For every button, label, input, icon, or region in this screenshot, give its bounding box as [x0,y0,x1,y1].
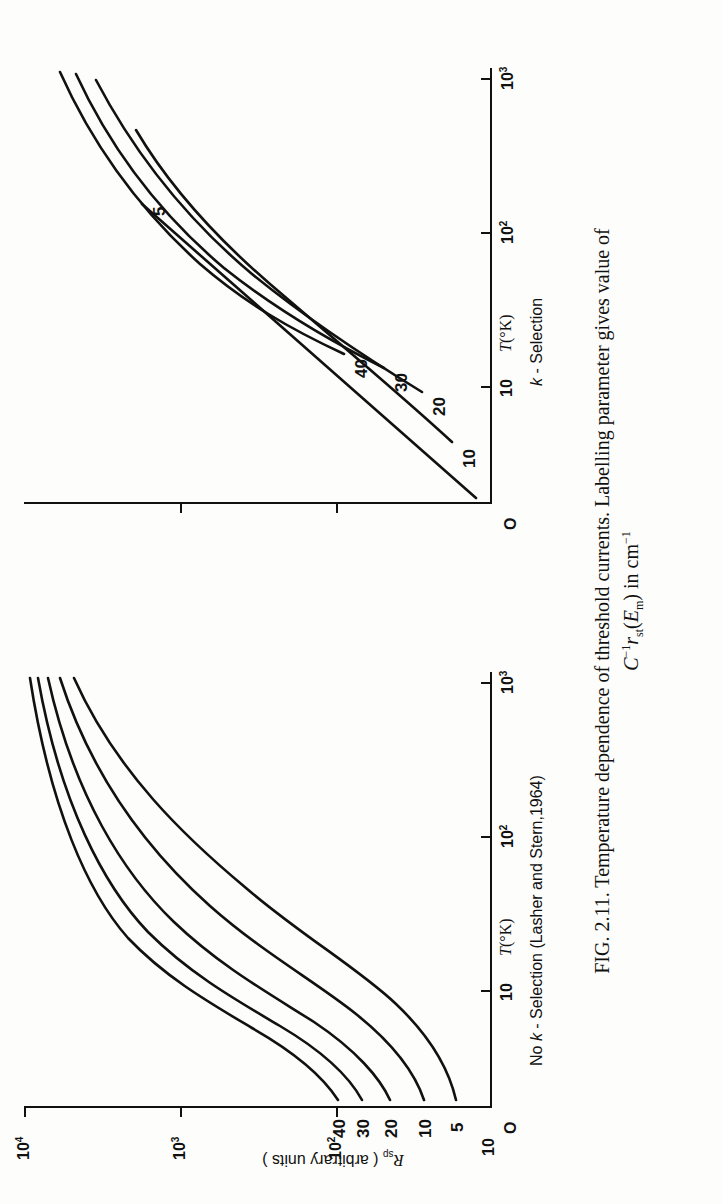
figure-caption-text: Temperature dependence of threshold curr… [591,228,613,887]
right-panel-plot: O 10 102 103 T(°K) k - Selection [24,64,524,504]
curve-20 [48,678,390,1100]
left-panel-origin-label: O [502,1122,520,1134]
subtitle-k-symbol: k [528,1033,545,1041]
curve-5 [142,204,476,498]
x-tick-base: 10 [498,379,515,397]
curve-30 [38,678,362,1100]
y-tick-exp: 4 [14,1137,25,1143]
curve-30 [76,74,384,368]
caption-sub-st: st [632,629,646,637]
left-panel-curve-label-30: 30 [354,1119,374,1138]
caption-paren-open: ( [620,622,642,629]
x-tick-base: 10 [498,983,515,1001]
caption-unit-exp: −1 [619,531,633,544]
right-panel-y-tick-2 [336,504,338,513]
curve-40 [30,678,338,1100]
left-panel-curve-label-40: 40 [330,1119,350,1138]
figure-caption: FIG. 2.11. Temperature dependence of thr… [588,86,648,1116]
y-axis-title-symbol: R [394,1151,404,1170]
right-panel-x-ticklabel-1: 10 [498,379,516,397]
y-axis-title-unit: ( arbitrary units ) [262,1152,383,1169]
y-tick-base: 10 [15,1142,32,1160]
caption-paren-close: ) [620,594,642,601]
x-axis-title-unit: (°K) [497,314,514,343]
x-tick-exp: 2 [498,825,509,831]
caption-symbol-C: C [620,657,642,670]
left-panel-x-ticklabel-3: 103 [498,671,517,694]
left-panel-plot: 10 102 103 104 O 10 102 103 T(°K) No k -… [24,668,524,1108]
y-tick-exp: 3 [170,1137,181,1143]
left-panel-curve-label-20: 20 [382,1119,402,1138]
curve-20 [96,80,422,392]
left-panel-x-ticklabel-1: 10 [498,983,516,1001]
x-axis-title-unit: (°K) [497,918,514,947]
y-axis-title-subscript: sp [383,1149,394,1160]
left-panel-y-ticklabel-4: 104 [14,1137,33,1160]
left-panel-y-ticklabel-3: 103 [170,1137,189,1160]
caption-sub-m: m [632,601,646,610]
right-panel-x-ticklabel-2: 102 [498,221,517,244]
right-panel-curve-label-5: 5 [150,207,170,216]
left-panel-x-axis-title: T(°K) [497,918,515,956]
left-panel-curve-label-10: 10 [416,1119,436,1138]
right-panel-x-ticklabel-3: 103 [498,67,517,90]
right-panel-x-axis-title: T(°K) [497,314,515,352]
right-panel-origin-label: O [502,518,520,530]
right-panel-subtitle: k - Selection [528,298,546,386]
subtitle-rest: - Selection [528,298,545,378]
figure-caption-line2: C−1rst(Em) in cm−1 [617,86,648,1116]
x-tick-exp: 3 [498,671,509,677]
x-tick-exp: 2 [498,221,509,227]
right-panel-curve-label-10: 10 [460,449,480,468]
left-panel-y-tick-4 [24,1108,26,1117]
right-panel-curves [24,64,494,504]
subtitle-prefix: No [528,1041,545,1066]
curve-10 [136,130,452,442]
left-panel-x-ticklabel-2: 102 [498,825,517,848]
x-axis-title-symbol: T [497,343,514,352]
left-panel-y-axis-title: Rsp ( arbitrary units ) [262,1149,404,1170]
right-panel-y-tick-3 [180,504,182,513]
left-panel-y-tick-3 [180,1108,182,1117]
caption-unit-text: in cm [620,544,642,594]
left-panel-y-tick-2 [336,1108,338,1117]
figure-page: 10 102 103 104 O 10 102 103 T(°K) No k -… [0,0,722,1204]
caption-symbol-E: E [620,610,642,622]
x-tick-base: 10 [499,830,516,848]
left-panel-y-ticklabel-1: 10 [480,1138,498,1156]
right-panel-curve-label-40: 40 [352,359,372,378]
y-tick-base: 10 [480,1138,497,1156]
left-panel-curves [24,668,494,1108]
x-axis-title-symbol: T [497,947,514,956]
figure-caption-label: FIG. 2.11. [591,892,613,973]
x-tick-base: 10 [499,72,516,90]
y-tick-base: 10 [171,1142,188,1160]
subtitle-k-symbol: k [528,378,545,386]
caption-exp-neg1: −1 [619,645,633,658]
right-panel-curve-label-30: 30 [392,373,412,392]
caption-symbol-r: r [620,637,642,645]
x-tick-base: 10 [499,226,516,244]
x-tick-base: 10 [499,676,516,694]
left-panel-subtitle: No k - Selection (Lasher and Stern,1964) [528,775,546,1066]
left-panel-curve-label-5: 5 [448,1123,468,1132]
right-panel-curve-label-20: 20 [430,397,450,416]
subtitle-rest: - Selection (Lasher and Stern,1964) [528,775,545,1033]
x-tick-exp: 3 [498,67,509,73]
